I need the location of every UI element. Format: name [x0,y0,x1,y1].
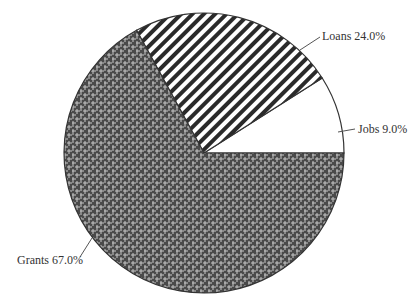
label-loans: Loans 24.0% [322,29,385,44]
label-jobs: Jobs 9.0% [358,122,407,137]
leader-line [300,37,320,50]
pie-slices [64,13,344,293]
label-grants: Grants 67.0% [17,253,83,268]
